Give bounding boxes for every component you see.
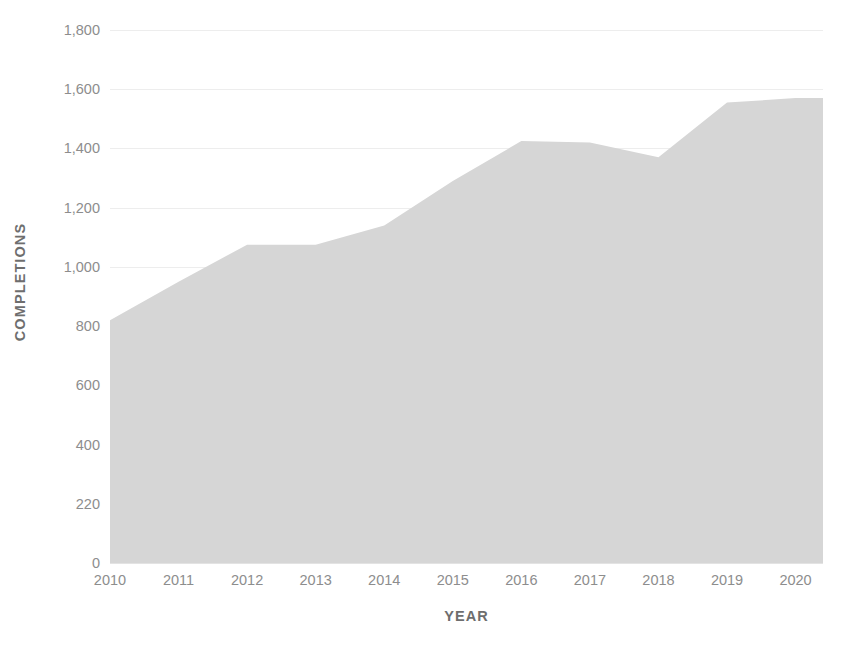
x-tick-label: 2016 <box>491 572 551 588</box>
y-tick-label: 0 <box>36 555 100 571</box>
y-tick-label: 1,600 <box>36 81 100 97</box>
y-tick-label: 1,000 <box>36 259 100 275</box>
x-tick-label: 2014 <box>354 572 414 588</box>
y-tick-label: 400 <box>36 437 100 453</box>
y-tick-label: 1,800 <box>36 22 100 38</box>
x-tick-label: 2017 <box>560 572 620 588</box>
area-series-completions <box>110 30 823 563</box>
y-axis-title-label: COMPLETIONS <box>12 222 28 340</box>
x-tick-label: 2020 <box>766 572 826 588</box>
area-chart: COMPLETIONS 02204006008001,0001,2001,400… <box>0 0 850 661</box>
y-tick-label: 220 <box>36 496 100 512</box>
y-tick-label: 800 <box>36 318 100 334</box>
x-tick-label: 2011 <box>149 572 209 588</box>
x-tick-label: 2013 <box>286 572 346 588</box>
x-tick-label: 2012 <box>217 572 277 588</box>
x-tick-label: 2015 <box>423 572 483 588</box>
x-axis-tick-labels: 2010201120122013201420152016201720182019… <box>0 572 850 596</box>
y-tick-label: 1,400 <box>36 140 100 156</box>
x-tick-label: 2018 <box>628 572 688 588</box>
x-axis-title: YEAR <box>110 608 823 624</box>
x-axis-baseline <box>110 563 823 564</box>
y-axis-tick-labels: 02204006008001,0001,2001,4001,6001,800 <box>36 0 100 661</box>
y-axis-title: COMPLETIONS <box>0 0 40 563</box>
area-series-layer <box>110 30 823 563</box>
x-tick-label: 2010 <box>80 572 140 588</box>
plot-area <box>110 30 823 563</box>
y-tick-label: 600 <box>36 377 100 393</box>
area-fill-path <box>110 98 823 563</box>
x-tick-label: 2019 <box>697 572 757 588</box>
y-tick-label: 1,200 <box>36 200 100 216</box>
